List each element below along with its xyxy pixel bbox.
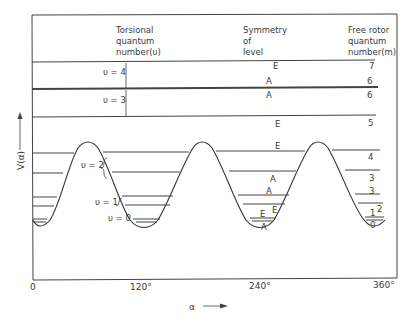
x-tick-0: 0: [30, 282, 36, 292]
sym-A-3a: A: [270, 174, 276, 184]
torsional-markers: [101, 63, 126, 206]
m-2: 2: [377, 204, 382, 214]
m-5: 5: [368, 118, 373, 128]
label-v2: υ = 2: [81, 160, 104, 170]
x-tick-120: 120°: [130, 282, 152, 292]
m-6b: 6: [367, 90, 372, 100]
m-7: 7: [369, 61, 374, 71]
label-v4: υ = 4: [103, 67, 126, 77]
m-0: 0: [370, 220, 375, 230]
sym-E-7: E: [273, 61, 278, 71]
x-tick-360: 360°: [373, 280, 395, 290]
level-lines-free: [32, 60, 378, 117]
sym-A-6b: A: [266, 90, 272, 100]
up-arrow-icon: [18, 112, 23, 119]
sym-E-1: E: [260, 209, 265, 219]
y-axis-label-group: V(α): [16, 112, 26, 170]
right-arrow-icon: [220, 304, 228, 309]
potential-curve: [33, 142, 385, 228]
sym-A-0: A: [261, 222, 267, 232]
plot-frame: [32, 14, 397, 280]
header-symmetry: Symmetry of level: [243, 25, 290, 57]
sym-E-2: E: [272, 205, 277, 215]
x-tick-240: 240°: [249, 281, 271, 291]
m-4: 4: [368, 152, 373, 162]
m-3b: 3: [369, 186, 374, 196]
m-1: 1: [370, 208, 375, 218]
sym-E-5: E: [275, 119, 280, 129]
sym-A-6a: A: [266, 76, 272, 86]
sym-E-4: E: [275, 141, 280, 151]
label-v1: υ = 1: [95, 197, 118, 207]
m-6a: 6: [367, 76, 372, 86]
label-v3: υ = 3: [103, 95, 126, 105]
x-axis-label: α: [189, 302, 195, 312]
header-free-rotor: Free rotor quantum number(m): [348, 25, 396, 57]
m-3a: 3: [369, 173, 374, 183]
label-v0: υ = 0: [108, 213, 131, 223]
torsional-energy-diagram: Torsional quantum number(υ) Symmetry of …: [0, 0, 415, 321]
sym-A-3b: A: [266, 186, 272, 196]
x-axis-label-group: α: [189, 302, 228, 312]
header-torsional: Torsional quantum number(υ): [115, 25, 161, 57]
y-axis-label: V(α): [16, 151, 26, 170]
